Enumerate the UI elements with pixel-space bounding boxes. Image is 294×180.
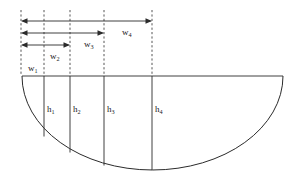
arrow-head-left-w3 <box>21 30 28 35</box>
height-label-h4: h4 <box>155 104 163 115</box>
width-label-w1: w1 <box>28 63 38 74</box>
arrow-head-left-w2 <box>21 42 28 47</box>
height-label-h3: h3 <box>107 104 115 115</box>
figure-canvas: w4 w3 w2 w1 h1 <box>0 0 294 180</box>
semi-ellipse-curve <box>22 76 283 170</box>
arrow-head-right-w4 <box>146 18 153 23</box>
width-label-group: w4 w3 w2 w1 <box>28 27 132 74</box>
diagram-svg: w4 w3 w2 w1 h1 <box>0 0 294 180</box>
arrow-head-left-w4 <box>21 18 28 23</box>
arrow-head-right-w2 <box>64 42 71 47</box>
width-dimension-w4 <box>21 18 152 23</box>
arrow-head-right-w3 <box>98 30 105 35</box>
height-label-group: h1 h2 h3 h4 <box>47 104 163 115</box>
width-label-w4: w4 <box>122 27 132 38</box>
height-label-h1: h1 <box>47 104 55 115</box>
height-line-group <box>44 76 152 170</box>
width-dimension-w3 <box>21 30 104 35</box>
width-label-w3: w3 <box>84 39 94 50</box>
width-label-w2: w2 <box>50 51 60 62</box>
width-dimension-w2 <box>21 42 70 47</box>
height-label-h2: h2 <box>73 104 81 115</box>
